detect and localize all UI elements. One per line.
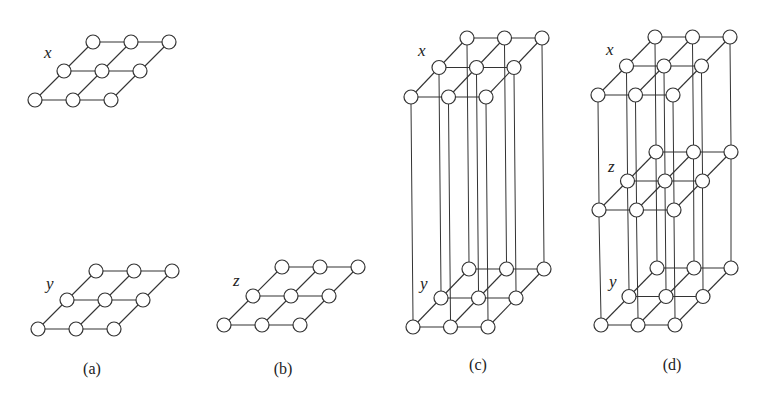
grid-node-z — [630, 203, 644, 217]
grid-node-z — [621, 174, 635, 188]
labels-layer: xy(a)z(b)xy(c)xzy(d) — [43, 40, 681, 378]
vertical-link — [702, 73, 703, 174]
panel-caption-a: (a) — [83, 360, 101, 378]
grid-node-z — [351, 260, 365, 274]
grid-node-x — [666, 88, 680, 102]
axis-label-z: z — [607, 157, 615, 176]
grid-node-x — [629, 88, 643, 102]
panel-caption-d: (d) — [663, 356, 682, 374]
grid-node-x — [591, 88, 605, 102]
grid-node-x — [28, 93, 42, 107]
grid-node-y — [165, 264, 179, 278]
grid-node-y — [31, 322, 45, 336]
vertical-link — [449, 104, 451, 320]
grid-node-y — [622, 290, 636, 304]
grid-node-x — [95, 64, 109, 78]
vertical-link — [628, 188, 630, 290]
axis-label-z: z — [232, 271, 240, 290]
vertical-link — [627, 73, 628, 174]
axis-label-y: y — [607, 272, 617, 291]
grid-node-y — [668, 318, 682, 332]
grid-node-x — [66, 93, 80, 107]
axis-label-y: y — [418, 274, 428, 293]
grid-node-x — [657, 59, 671, 73]
grid-node-x — [695, 59, 709, 73]
vertical-link — [599, 217, 601, 318]
grid-node-z — [255, 318, 269, 332]
grid-node-y — [500, 262, 514, 276]
grid-node-x — [133, 64, 147, 78]
grid-node-y — [472, 291, 486, 305]
grid-node-y — [724, 261, 738, 275]
grid-node-y — [127, 264, 141, 278]
grid-node-x — [620, 59, 634, 73]
grid-node-y — [509, 291, 523, 305]
vertical-link — [693, 44, 694, 145]
grid-node-x — [648, 30, 662, 44]
axis-label-y: y — [44, 274, 54, 293]
panel-caption-b: (b) — [274, 360, 293, 378]
grid-node-x — [124, 35, 138, 49]
axis-label-x: x — [605, 40, 614, 59]
vertical-link — [439, 75, 441, 292]
grid-node-z — [275, 260, 289, 274]
grid-node-x — [723, 30, 737, 44]
grid-node-z — [293, 318, 307, 332]
grid-node-x — [498, 31, 512, 45]
grid-node-y — [481, 320, 495, 334]
grid-node-y — [406, 320, 420, 334]
grid-node-z — [592, 203, 606, 217]
vertical-link — [477, 75, 479, 292]
grid-node-z — [313, 260, 327, 274]
grid-node-z — [649, 145, 663, 159]
grid-node-x — [432, 61, 446, 75]
vertical-link — [730, 44, 731, 145]
vertical-link — [598, 102, 599, 203]
grid-node-z — [696, 174, 710, 188]
grid-node-x — [57, 64, 71, 78]
vertical-link — [664, 73, 665, 174]
grid-node-z — [322, 289, 336, 303]
grid-node-y — [659, 290, 673, 304]
vertical-link — [637, 217, 639, 318]
grid-node-y — [594, 318, 608, 332]
grid-node-z — [217, 318, 231, 332]
grid-node-y — [89, 264, 103, 278]
axis-label-x: x — [43, 43, 52, 62]
grid-node-y — [98, 293, 112, 307]
vertical-link — [665, 188, 666, 290]
vertical-link — [411, 104, 413, 320]
grid-node-y — [69, 322, 83, 336]
grid-node-y — [60, 293, 74, 307]
grid-node-y — [136, 293, 150, 307]
vertical-link — [514, 75, 516, 292]
grid-node-x — [686, 30, 700, 44]
grid-node-y — [631, 318, 645, 332]
grid-node-x — [507, 61, 521, 75]
grid-node-z — [667, 203, 681, 217]
grid-node-x — [460, 31, 474, 45]
grid-topology-figure: xy(a)z(b)xy(c)xzy(d) — [0, 0, 759, 402]
grid-node-y — [444, 320, 458, 334]
grid-node-z — [246, 289, 260, 303]
grid-node-y — [434, 291, 448, 305]
grid-node-x — [479, 90, 493, 104]
panel-caption-c: (c) — [469, 356, 487, 374]
grid-node-y — [650, 261, 664, 275]
grid-node-z — [724, 145, 738, 159]
grid-node-x — [535, 31, 549, 45]
vertical-link — [486, 104, 488, 320]
grid-node-y — [462, 262, 476, 276]
vertical-link — [703, 188, 704, 290]
grid-node-y — [537, 262, 551, 276]
grid-node-x — [404, 90, 418, 104]
grid-node-x — [104, 93, 118, 107]
vertical-link — [542, 45, 544, 262]
grid-node-y — [107, 322, 121, 336]
grid-node-x — [162, 35, 176, 49]
grid-node-y — [696, 290, 710, 304]
grid-node-y — [687, 261, 701, 275]
grid-nodes-layer — [28, 30, 738, 336]
grid-node-x — [470, 61, 484, 75]
grid-node-x — [442, 90, 456, 104]
